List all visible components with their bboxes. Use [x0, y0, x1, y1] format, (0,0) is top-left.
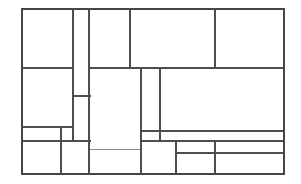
cell-right-mid-strip [160, 131, 284, 141]
cell-center-tall [89, 68, 141, 149]
cell-top-center-wide [130, 9, 215, 68]
cell-top-narrow-column [73, 9, 89, 96]
cell-mid-narrow-lower [73, 96, 90, 141]
cell-left-thin-strip-small [61, 127, 73, 141]
cell-left-thin-strip [22, 127, 61, 141]
figure-root [0, 0, 301, 184]
cell-right-wide-mid [160, 68, 284, 131]
cell-center-narrow-tall [141, 68, 160, 131]
cell-top-right [215, 9, 284, 68]
cell-bottom-left-center [61, 141, 89, 174]
cell-mid-left-upper [22, 68, 73, 127]
cell-bottom-center [89, 149, 141, 174]
cell-top-center-left [89, 9, 130, 68]
cell-far-bottom-right-up [215, 141, 284, 153]
cell-bottom-left [22, 141, 61, 174]
cell-center-small-box [141, 131, 160, 141]
cell-bottom-center-right [141, 141, 176, 174]
cell-bottom-right-lower [176, 153, 215, 174]
cell-top-left-large [22, 9, 73, 68]
rectangle-dissection-diagram [0, 0, 301, 184]
cell-far-bottom-right-low [215, 153, 284, 174]
cell-bottom-right-upper [176, 141, 215, 153]
